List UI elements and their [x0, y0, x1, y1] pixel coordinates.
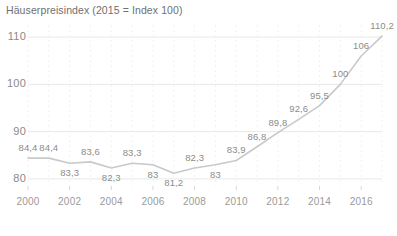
- data-label-2001: 84,4: [34, 142, 64, 153]
- data-label-2005: 83,3: [117, 147, 147, 158]
- x-axis-tick-label-2014: 2014: [303, 196, 337, 207]
- data-label-2002: 83,3: [55, 167, 85, 178]
- x-axis-tick-label-2000: 2000: [11, 196, 45, 207]
- data-label-2012: 89,8: [263, 117, 293, 128]
- y-axis-tick-label-100: 100: [0, 77, 26, 89]
- data-label-2011: 86,8: [242, 131, 272, 142]
- y-axis-tick-label-90: 90: [0, 125, 26, 137]
- x-axis-tick-label-2008: 2008: [178, 196, 212, 207]
- x-axis-tick-label-2002: 2002: [53, 196, 87, 207]
- data-label-2016: 106: [346, 40, 376, 51]
- x-axis-tick-label-2012: 2012: [261, 196, 295, 207]
- x-axis-tick-label-2006: 2006: [136, 196, 170, 207]
- data-label-2017: 110,2: [367, 20, 397, 31]
- data-label-2007: 81,2: [159, 177, 189, 188]
- y-axis-tick-label-80: 80: [0, 172, 26, 184]
- data-label-2015: 100: [325, 68, 355, 79]
- data-label-2010: 83,9: [221, 144, 251, 155]
- data-label-2009: 83: [200, 169, 230, 180]
- data-label-2008: 82,3: [180, 152, 210, 163]
- x-axis-tick-label-2016: 2016: [344, 196, 378, 207]
- x-axis-tick-label-2004: 2004: [94, 196, 128, 207]
- data-label-2013: 92,6: [284, 103, 314, 114]
- y-axis-tick-label-110: 110: [0, 30, 26, 42]
- data-label-2003: 83,6: [75, 146, 105, 157]
- data-label-2014: 95,5: [305, 90, 335, 101]
- data-label-2004: 82,3: [96, 172, 126, 183]
- x-axis-tick-label-2010: 2010: [219, 196, 253, 207]
- axis-tick-marks: [28, 186, 361, 190]
